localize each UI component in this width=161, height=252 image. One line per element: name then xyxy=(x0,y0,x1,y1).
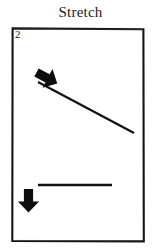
figure-panel-2: 2 xyxy=(11,27,145,243)
upper-motion-group xyxy=(32,63,134,133)
stretch-figure: Stretch 2 xyxy=(0,0,161,252)
lower-motion-group xyxy=(18,185,112,213)
arrow-down-icon xyxy=(18,189,39,213)
page-title: Stretch xyxy=(0,2,161,22)
upper-diagonal-line xyxy=(38,82,134,133)
panel-drawing xyxy=(11,27,145,243)
arrow-up-right-icon xyxy=(32,63,63,93)
